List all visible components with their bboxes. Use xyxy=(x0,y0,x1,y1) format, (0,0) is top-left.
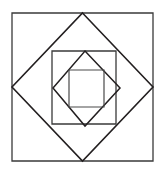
nested-squares-diagram xyxy=(0,0,164,174)
figure-canvas xyxy=(0,0,164,174)
figure-background xyxy=(0,0,164,174)
